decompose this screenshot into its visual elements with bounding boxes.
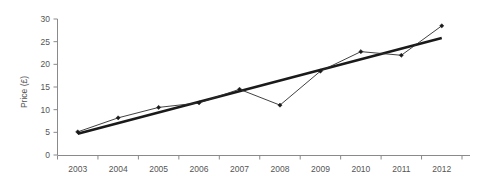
x-tick-label: 2012 — [432, 164, 451, 174]
x-tick-label: 2003 — [68, 164, 87, 174]
y-axis-title: Price (£) — [19, 76, 29, 108]
x-tick-label: 2007 — [230, 164, 249, 174]
y-tick-label: 20 — [41, 59, 51, 69]
data-point-marker — [116, 116, 120, 120]
x-axis-tick-labels: 2003200420052006200720082009201020112012 — [68, 164, 451, 174]
x-tick-label: 2008 — [271, 164, 290, 174]
x-tick-label: 2006 — [190, 164, 209, 174]
x-tick-label: 2005 — [149, 164, 168, 174]
x-tick-label: 2004 — [109, 164, 128, 174]
x-axis-ticks — [58, 156, 463, 160]
trendline-series — [78, 38, 442, 134]
y-axis-ticks — [54, 19, 58, 155]
price-series-markers — [76, 24, 444, 134]
x-tick-label: 2009 — [311, 164, 330, 174]
y-tick-label: 0 — [45, 150, 50, 160]
x-tick-label: 2011 — [392, 164, 411, 174]
y-tick-label: 10 — [41, 105, 51, 115]
price-series-line — [78, 26, 442, 132]
x-tick-label: 2010 — [351, 164, 370, 174]
y-tick-label: 30 — [41, 14, 51, 24]
chart-container: 051015202530 200320042005200620072008200… — [0, 0, 494, 186]
y-axis-tick-labels: 051015202530 — [41, 14, 51, 160]
y-tick-label: 15 — [41, 82, 51, 92]
data-point-marker — [157, 105, 161, 109]
y-tick-label: 25 — [41, 37, 51, 47]
y-tick-label: 5 — [45, 127, 50, 137]
data-point-marker — [359, 50, 363, 54]
price-trend-chart: 051015202530 200320042005200620072008200… — [0, 0, 494, 186]
